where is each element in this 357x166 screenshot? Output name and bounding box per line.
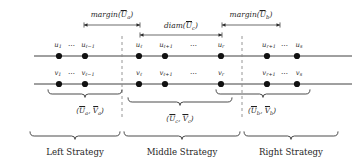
margin-ua-arrowhead bbox=[137, 23, 141, 26]
u-number-line-node-7[interactable] bbox=[294, 53, 300, 59]
u-node-label-5: uℓ+1 bbox=[159, 42, 173, 49]
brace-strategy-right bbox=[244, 132, 338, 140]
diam-uc-label: diam(Uc) bbox=[164, 21, 198, 31]
v-node-label-6: ⋯ bbox=[190, 71, 198, 78]
v-node-label-7: vr bbox=[218, 70, 224, 77]
brace-strategy-middle bbox=[124, 132, 240, 140]
margin-ub-label: margin(Ub) bbox=[230, 10, 273, 20]
brace-strategy-left bbox=[30, 132, 120, 140]
v-number-line-node-5[interactable] bbox=[218, 81, 224, 87]
brace-strategy-middle-label: Middle Strategy bbox=[147, 148, 218, 157]
v-number-line-node-2[interactable] bbox=[82, 81, 88, 87]
brace-pair-b bbox=[216, 90, 310, 98]
u-number-line-node-5[interactable] bbox=[218, 53, 224, 59]
v-number-line-node-4[interactable] bbox=[162, 81, 168, 87]
u-node-label-4: uℓ bbox=[136, 42, 142, 49]
diam-uc-arrowhead bbox=[140, 33, 144, 36]
v-number-line-node-3[interactable] bbox=[136, 81, 142, 87]
u-node-label-3: uℓ−1 bbox=[81, 42, 95, 49]
v-number-line-node-6[interactable] bbox=[264, 81, 270, 87]
u-node-label-9: ⋯ bbox=[281, 43, 289, 50]
margin-ub-arrowhead bbox=[277, 23, 281, 26]
v-node-label-10: vs bbox=[296, 70, 302, 77]
u-node-label-10: us bbox=[296, 42, 303, 49]
u-number-line-node-4[interactable] bbox=[162, 53, 168, 59]
interval-strategy-diagram: margin(Ua)diam(Uc)margin(Ub)u1⋯uℓ−1uℓuℓ+… bbox=[0, 0, 357, 166]
u-number-line-node-3[interactable] bbox=[136, 53, 142, 59]
u-node-label-8: ur+1 bbox=[262, 42, 276, 49]
v-number-line-node-7[interactable] bbox=[294, 81, 300, 87]
u-node-label-1: u1 bbox=[54, 42, 62, 49]
u-number-line-node-2[interactable] bbox=[82, 53, 88, 59]
brace-strategy-right-label: Right Strategy bbox=[259, 148, 323, 157]
v-node-label-2: ⋯ bbox=[68, 71, 76, 78]
margin-ua-arrowhead bbox=[84, 23, 88, 26]
v-node-label-9: ⋯ bbox=[281, 71, 289, 78]
brace-pair-c bbox=[128, 98, 232, 106]
v-node-label-1: v1 bbox=[55, 70, 62, 77]
u-node-label-6: ⋯ bbox=[190, 43, 198, 50]
brace-pair-b-label: (Ub, Vb) bbox=[248, 106, 276, 116]
brace-pair-a-label: (Ua, Va) bbox=[76, 106, 104, 116]
margin-ua-label: margin(Ua) bbox=[91, 10, 134, 20]
brace-pair-a bbox=[48, 90, 122, 98]
v-node-label-8: vr+1 bbox=[262, 70, 275, 77]
v-number-line-node-1[interactable] bbox=[56, 81, 62, 87]
v-node-label-3: vℓ−1 bbox=[81, 70, 94, 77]
u-node-label-2: ⋯ bbox=[68, 43, 76, 50]
u-node-label-7: ur bbox=[218, 42, 225, 49]
brace-strategy-left-label: Left Strategy bbox=[46, 148, 104, 157]
v-node-label-4: vℓ bbox=[136, 70, 142, 77]
u-number-line-node-6[interactable] bbox=[264, 53, 270, 59]
diam-uc-arrowhead bbox=[219, 33, 223, 36]
u-number-line-node-1[interactable] bbox=[56, 53, 62, 59]
margin-ub-arrowhead bbox=[222, 23, 226, 26]
brace-pair-c-label: (Uc, Vc) bbox=[166, 114, 193, 124]
v-node-label-5: vℓ+1 bbox=[159, 70, 172, 77]
